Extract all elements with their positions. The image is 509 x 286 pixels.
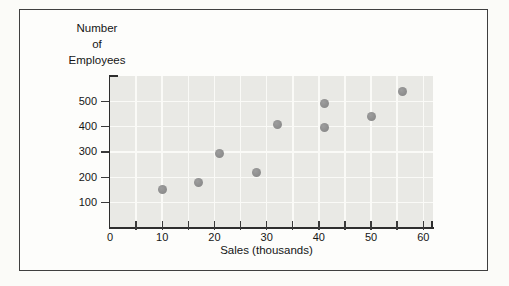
x-tick-label: 20 [199, 231, 229, 243]
y-tick-label: 400 [67, 120, 97, 133]
y-axis-title: Number of Employees [55, 20, 139, 68]
x-axis-line [109, 227, 434, 229]
x-axis-tick [396, 221, 397, 230]
y-axis-tick [101, 202, 110, 204]
x-tick-label: 0 [95, 231, 125, 243]
data-point [367, 112, 376, 121]
data-point [398, 87, 407, 96]
data-point [194, 178, 203, 187]
x-tick-label: 30 [252, 231, 282, 243]
x-axis-tick [292, 221, 293, 230]
y-axis-tick [101, 151, 110, 153]
data-point [273, 120, 282, 129]
y-tick-label: 500 [67, 95, 97, 108]
data-point [215, 149, 224, 158]
data-point [320, 99, 329, 108]
y-axis-title-line-1: Number [55, 20, 139, 36]
grid-line-horizontal [110, 177, 433, 179]
x-axis-tick [240, 221, 241, 230]
grid-line-horizontal [110, 202, 433, 204]
y-tick-label: 100 [67, 196, 97, 209]
grid-line-horizontal [110, 126, 433, 128]
grid-line-horizontal [110, 151, 433, 153]
y-axis-title-line-3: Employees [55, 52, 139, 68]
data-point [320, 123, 329, 132]
x-axis-tick [318, 221, 319, 230]
data-point [158, 185, 167, 194]
y-axis-tick [101, 126, 110, 128]
x-tick-label: 50 [356, 231, 386, 243]
x-tick-label: 40 [304, 231, 334, 243]
x-tick-label: 10 [147, 231, 177, 243]
y-axis-title-line-2: of [55, 36, 139, 52]
figure-page: Number of Employees Sales (thousands) 10… [0, 0, 509, 286]
x-tick-label: 60 [408, 231, 438, 243]
y-tick-label: 300 [67, 145, 97, 158]
x-axis-tick [423, 221, 424, 230]
y-axis-tick [101, 177, 110, 179]
x-axis-tick [370, 221, 371, 230]
x-axis-tick [266, 221, 267, 230]
x-axis-end-cap [431, 221, 433, 229]
x-axis-title: Sales (thousands) [160, 244, 373, 256]
grid-line-horizontal [110, 101, 433, 103]
plot-area [110, 76, 433, 228]
y-tick-label: 200 [67, 171, 97, 184]
x-axis-tick [135, 221, 136, 230]
data-point [252, 168, 261, 177]
x-axis-tick [162, 221, 163, 230]
y-axis-end-cap [109, 75, 118, 77]
x-axis-tick [214, 221, 215, 230]
x-axis-tick [188, 221, 189, 230]
x-axis-tick [344, 221, 345, 230]
y-axis-tick [101, 101, 110, 103]
